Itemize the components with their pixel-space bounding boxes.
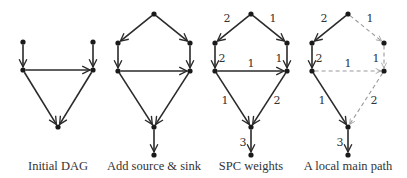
edge-arrow [156,73,189,124]
graph-node [90,39,95,44]
graph-node [248,11,253,16]
edge-arrow [120,16,152,41]
graph-node [345,152,350,157]
graph-node [309,40,314,45]
graph-node [187,68,192,73]
graph-node [345,124,350,129]
graph-node [212,40,217,45]
edge-arrow [119,73,152,124]
graph-node [151,152,156,157]
panel-caption: Add source & sink [107,159,202,173]
panel-caption: Initial DAG [28,159,88,173]
panels-layer: Initial DAGAdd source & sink21211123SPC … [20,11,393,173]
graph-node [248,152,253,157]
panel-caption: A local main path [304,159,393,173]
graph-node [115,68,120,73]
edge-weight-label: 2 [224,12,231,25]
edge-weight-label: 1 [373,52,380,65]
edge-weight-label: 1 [345,57,352,70]
graph-node [284,40,289,45]
panel-initial: Initial DAG [20,39,95,173]
panel-source-sink: Add source & sink [107,11,202,173]
edge-weight-label: 2 [321,12,328,25]
graph-node [345,11,350,16]
graph-node [187,40,192,45]
dashed-edge-arrow [350,73,383,124]
edge-arrow [24,72,56,124]
edge-weight-label: 3 [240,136,247,149]
graph-node [212,68,217,73]
panel-caption: SPC weights [219,159,283,173]
graph-node [90,67,95,72]
edge-weight-label: 2 [274,94,281,107]
graph-node [115,40,120,45]
panel-main-path: 21211123A local main path [304,11,393,173]
graph-node [381,68,386,73]
edge-weight-label: 1 [222,94,229,107]
edge-arrow [60,72,92,124]
edge-weight-label: 1 [319,94,326,107]
edge-weight-label: 2 [219,52,226,65]
graph-node [381,40,386,45]
graph-node [151,124,156,129]
graph-node [55,124,60,129]
edge-arrow [156,16,188,41]
graph-node [309,68,314,73]
edge-weight-label: 2 [371,94,378,107]
edge-arrow [217,16,249,41]
panel-spc: 21211123SPC weights [212,11,289,173]
edge-weight-label: 1 [367,12,374,25]
edge-arrow [253,73,286,124]
graph-node [248,124,253,129]
graph-node [151,11,156,16]
edge-weight-label: 1 [270,12,277,25]
dag-diagram: Initial DAGAdd source & sink21211123SPC … [0,0,407,178]
edge-weight-label: 1 [276,52,283,65]
graph-node [284,68,289,73]
edge-weight-label: 2 [316,52,323,65]
graph-node [20,67,25,72]
edge-weight-label: 1 [248,57,255,70]
graph-node [20,39,25,44]
edge-arrow [314,16,346,41]
edge-weight-label: 3 [337,136,344,149]
